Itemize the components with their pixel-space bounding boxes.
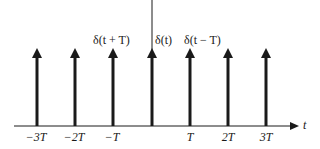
label-delta-t-plus-T: δ(t + T) (93, 34, 130, 46)
label-delta-t-minus-T: δ(t − T) (184, 34, 221, 46)
arrowhead-icon (185, 48, 195, 58)
arrowhead-icon (223, 48, 233, 58)
tick-T: T (187, 131, 194, 143)
t-axis-arrowhead-icon (290, 122, 299, 130)
impulse-arrowheads (32, 48, 271, 58)
arrowhead-icon (261, 48, 271, 58)
tick-minus-T: −T (105, 131, 120, 143)
tick-2T: 2T (222, 131, 235, 143)
tick-minus-2T: −2T (64, 131, 85, 143)
arrowhead-icon (70, 48, 80, 58)
tick-minus-3T: −3T (26, 131, 47, 143)
arrowhead-icon (108, 48, 118, 58)
axis-label-t: t (303, 119, 306, 131)
impulse-train-diagram (0, 0, 320, 149)
tick-3T: 3T (260, 131, 273, 143)
impulse-arrows (37, 54, 266, 126)
arrowhead-icon (147, 48, 157, 58)
arrowhead-icon (32, 48, 42, 58)
label-delta-t: δ(t) (155, 34, 172, 46)
